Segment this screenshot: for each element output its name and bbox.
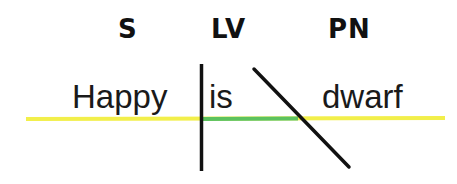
label-subject: S xyxy=(118,16,138,42)
word-complement: dwarf xyxy=(322,80,403,113)
sentence-diagram: S LV PN Happy is dwarf xyxy=(0,0,457,184)
label-predicate-nominative: PN xyxy=(328,16,371,42)
word-subject: Happy xyxy=(72,80,167,113)
label-linking-verb: LV xyxy=(211,16,246,42)
verb-segment-line xyxy=(202,119,298,120)
word-verb: is xyxy=(209,80,233,113)
